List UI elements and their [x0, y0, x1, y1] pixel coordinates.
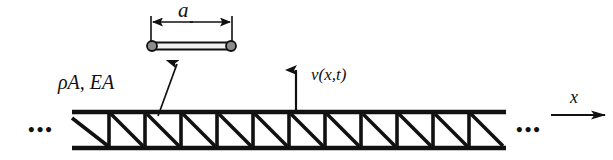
- x-axis-label: x: [570, 88, 578, 106]
- truss-diagonal: [471, 114, 503, 146]
- truss-diagonal: [255, 114, 287, 146]
- callout-leader-arrow: [158, 64, 177, 116]
- truss-diagonal-partial: [72, 118, 108, 146]
- ellipsis-left: •••: [28, 120, 54, 139]
- truss-diagonal: [219, 114, 251, 146]
- truss-diagonal: [111, 114, 143, 146]
- unit-cell-bar-element: [147, 41, 236, 51]
- material-properties-label: ρA, EA: [58, 72, 114, 92]
- truss-diagonal: [183, 114, 215, 146]
- unit-cell-length-label: a: [178, 0, 189, 21]
- left-pin-joint: [147, 41, 157, 51]
- truss-diagonal: [399, 114, 431, 146]
- truss-diagonal: [291, 114, 323, 146]
- unit-cell-dimension: [151, 16, 232, 44]
- transverse-displacement-label: v(x,t): [311, 66, 346, 83]
- bar-body: [150, 43, 233, 50]
- truss-diagonal: [327, 114, 359, 146]
- truss-diagonal: [147, 114, 179, 146]
- truss-structure: [72, 112, 506, 148]
- truss-beam-figure: a ρA, EA v(x,t) x ••• •••: [0, 0, 613, 160]
- ellipsis-right: •••: [516, 120, 542, 139]
- right-pin-joint: [226, 41, 236, 51]
- truss-diagonal: [363, 114, 395, 146]
- truss-diagonal: [435, 114, 467, 146]
